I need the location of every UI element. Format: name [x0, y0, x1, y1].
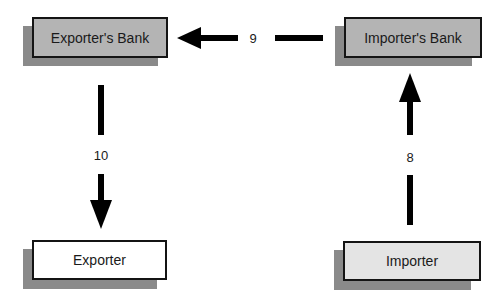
importers-bank-label: Importer's Bank	[364, 30, 462, 46]
exporter-box: Exporter	[32, 240, 167, 280]
step-label-8: 8	[406, 150, 413, 165]
importer-label: Importer	[386, 253, 438, 269]
exporter-label: Exporter	[73, 252, 126, 268]
exporters-bank-label: Exporter's Bank	[51, 30, 149, 46]
step-label-10: 10	[94, 148, 108, 163]
step-label-9: 9	[249, 31, 256, 46]
exporters-bank-box: Exporter's Bank	[32, 17, 168, 58]
importer-box: Importer	[343, 241, 481, 281]
importers-bank-box: Importer's Bank	[344, 17, 482, 58]
